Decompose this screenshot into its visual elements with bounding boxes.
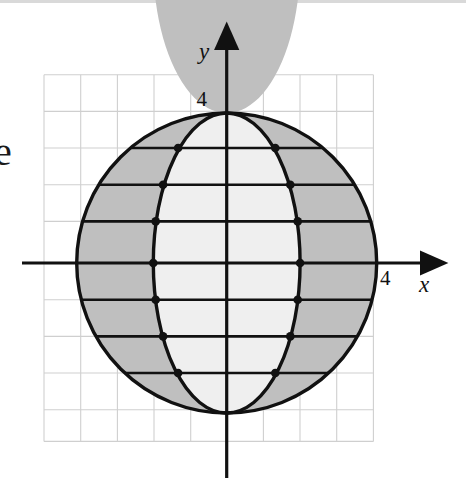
intersection-dot (159, 180, 168, 189)
intersection-dot (151, 217, 160, 226)
intersection-dot (151, 295, 160, 304)
intersection-dot (293, 295, 302, 304)
intersection-dot (159, 332, 168, 341)
intersection-dot (271, 144, 280, 153)
intersection-dot (174, 144, 183, 153)
x-axis-tick-label: 4 (380, 266, 391, 290)
intersection-dot (271, 369, 280, 378)
intersection-dot (286, 180, 295, 189)
intersection-dot (286, 332, 295, 341)
intersection-dot (296, 259, 305, 268)
coordinate-plot: 4 4 y x (0, 0, 466, 500)
y-axis-name-label: y (197, 39, 210, 64)
figure-root: e (0, 0, 466, 500)
intersection-dot (149, 259, 158, 268)
intersection-dot (174, 369, 183, 378)
intersection-dot (293, 217, 302, 226)
y-axis-tick-label: 4 (197, 87, 208, 111)
x-axis-name-label: x (418, 272, 430, 297)
